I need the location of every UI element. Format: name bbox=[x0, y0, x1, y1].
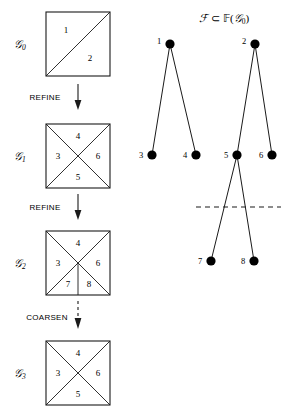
tree-edge-1-3 bbox=[152, 44, 170, 155]
mesh-g3-region-4: 4 bbox=[76, 348, 81, 358]
operation-coarsen-arrow-head bbox=[75, 318, 82, 329]
refinement-tree-figure: ℱ⊂𝔽(𝒢0) 𝒢0 1 2 REFINE 𝒢1 4 3 6 5 REFINE … bbox=[0, 0, 285, 415]
tree-node-7 bbox=[206, 256, 215, 265]
mesh-g3-region-5: 5 bbox=[76, 389, 81, 399]
mesh-g2-region-8: 8 bbox=[87, 279, 92, 289]
operation-refine-2: REFINE bbox=[29, 194, 81, 220]
mesh-g2-region-6: 6 bbox=[96, 258, 101, 268]
mesh-g3-label-sub: 3 bbox=[21, 372, 26, 381]
tree-edge-2-5 bbox=[237, 44, 255, 155]
tree-node-6-label: 6 bbox=[259, 150, 263, 160]
tree-node-5 bbox=[232, 150, 241, 159]
tree-node-3-label: 3 bbox=[139, 150, 143, 160]
tree-node-1 bbox=[165, 39, 174, 48]
operation-refine-1: REFINE bbox=[29, 84, 81, 110]
header-subset: ⊂ bbox=[211, 12, 220, 24]
header-script-f: ℱ bbox=[199, 12, 210, 24]
mesh-g0-region-1: 1 bbox=[64, 25, 69, 35]
operation-refine-2-arrow-head bbox=[75, 210, 82, 220]
mesh-g3-region-3: 3 bbox=[56, 368, 61, 378]
mesh-g2: 𝒢2 4 3 6 7 8 bbox=[14, 231, 110, 295]
tree-node-4 bbox=[191, 150, 200, 159]
mesh-g3-region-6: 6 bbox=[96, 368, 101, 378]
operation-refine-1-arrow-head bbox=[75, 100, 82, 110]
header-formula: ℱ⊂𝔽(𝒢0) bbox=[199, 12, 249, 26]
tree-node-6 bbox=[267, 150, 276, 159]
tree-node-2 bbox=[250, 39, 259, 48]
mesh-g2-region-4: 4 bbox=[76, 238, 81, 248]
operation-coarsen-label: COARSEN bbox=[26, 313, 68, 322]
tree-edge-5-8 bbox=[237, 155, 254, 261]
tree-node-1-label: 1 bbox=[157, 36, 161, 46]
mesh-g3: 𝒢3 4 3 6 5 bbox=[14, 341, 110, 405]
mesh-g0-region-2: 2 bbox=[88, 53, 93, 63]
mesh-g1-region-5: 5 bbox=[76, 172, 81, 182]
mesh-g1-region-6: 6 bbox=[96, 151, 101, 161]
tree-node-3 bbox=[147, 150, 156, 159]
mesh-g2-label: 𝒢2 bbox=[14, 257, 26, 271]
forest-tree: 1 2 3 4 5 6 7 8 bbox=[139, 36, 281, 266]
mesh-g0: 𝒢0 1 2 bbox=[14, 12, 110, 76]
mesh-g1-region-3: 3 bbox=[56, 151, 61, 161]
tree-node-8-label: 8 bbox=[241, 256, 245, 266]
mesh-g2-region-7: 7 bbox=[66, 279, 71, 289]
tree-node-7-label: 7 bbox=[198, 256, 202, 266]
mesh-g0-diagonal bbox=[46, 12, 110, 76]
mesh-g2-label-sub: 2 bbox=[22, 262, 26, 271]
mesh-g1-label: 𝒢1 bbox=[14, 150, 26, 164]
tree-edge-2-6 bbox=[255, 44, 272, 155]
operation-refine-2-label: REFINE bbox=[29, 203, 60, 212]
mesh-g1-region-4: 4 bbox=[76, 131, 81, 141]
tree-node-5-label: 5 bbox=[224, 150, 228, 160]
operation-refine-1-label: REFINE bbox=[29, 93, 60, 102]
mesh-g3-label: 𝒢3 bbox=[14, 367, 26, 381]
operation-coarsen: COARSEN bbox=[26, 301, 81, 329]
tree-node-2-label: 2 bbox=[242, 36, 246, 46]
mesh-g1: 𝒢1 4 3 6 5 bbox=[14, 124, 110, 188]
mesh-g1-label-sub: 1 bbox=[22, 155, 26, 164]
header-bb-f: 𝔽 bbox=[223, 12, 230, 24]
tree-edge-1-4 bbox=[170, 44, 196, 155]
mesh-g0-label-sub: 0 bbox=[22, 43, 26, 52]
tree-edge-5-7 bbox=[211, 155, 237, 261]
mesh-g2-region-3: 3 bbox=[56, 258, 61, 268]
tree-node-8 bbox=[249, 256, 258, 265]
mesh-g0-label: 𝒢0 bbox=[14, 38, 26, 52]
header-close-paren: ) bbox=[245, 12, 249, 25]
tree-node-4-label: 4 bbox=[183, 150, 188, 160]
